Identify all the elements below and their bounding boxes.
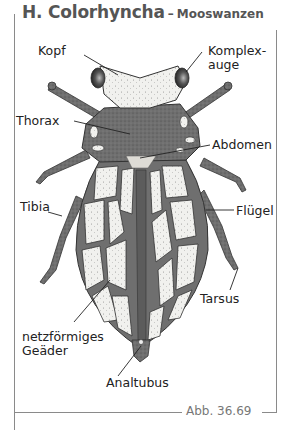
label-komplexauge-2: auge bbox=[208, 58, 239, 72]
leg-front-left bbox=[36, 150, 90, 184]
figure-caption: Abb. 36.69 bbox=[186, 404, 251, 418]
label-kopf: Kopf bbox=[38, 44, 66, 58]
label-komplexauge-1: Komplex- bbox=[208, 44, 266, 58]
leader-komplexauge bbox=[186, 52, 202, 72]
label-geaeder-1: netzförmiges bbox=[22, 330, 104, 344]
leg-front-right bbox=[200, 158, 246, 192]
compound-eye-left bbox=[91, 68, 105, 88]
label-tibia: Tibia bbox=[20, 200, 50, 214]
leader-tarsus bbox=[230, 268, 238, 290]
wing-suture bbox=[136, 170, 146, 340]
label-analtubus: Analtubus bbox=[106, 376, 169, 390]
label-abdomen: Abdomen bbox=[212, 138, 272, 152]
label-tarsus: Tarsus bbox=[200, 292, 239, 306]
leader-analtubus bbox=[118, 346, 141, 376]
thorax bbox=[82, 104, 200, 162]
label-thorax: Thorax bbox=[16, 114, 59, 128]
label-geaeder-2: Geäder bbox=[22, 344, 68, 358]
leader-tibia bbox=[48, 212, 62, 216]
label-fluegel: Flügel bbox=[236, 204, 274, 218]
